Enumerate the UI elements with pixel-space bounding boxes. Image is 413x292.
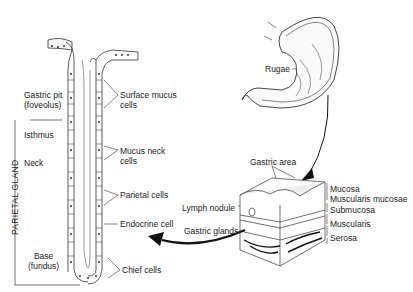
- label-mucus-neck-cells: Mucus neck cells: [120, 146, 165, 166]
- label-serosa: Serosa: [330, 233, 357, 243]
- label-muscularis-mucosae: Muscularis mucosae: [330, 194, 407, 204]
- label-gastric-pit: Gastric pit (foveolus): [24, 90, 62, 110]
- label-mucus-neck-sub: cells: [120, 156, 165, 166]
- label-parietal-cells: Parietal cells: [120, 190, 168, 200]
- label-base-sub: (fundus): [28, 261, 59, 271]
- label-surface-mucus-cells: Surface mucus cells: [120, 90, 177, 110]
- label-endocrine-cell: Endocrine cell: [120, 219, 173, 229]
- label-lymph-nodule: Lymph nodule: [182, 203, 235, 213]
- label-mucosa: Mucosa: [330, 184, 360, 194]
- diagram-canvas: [0, 0, 413, 292]
- label-gastric-pit-text: Gastric pit: [24, 90, 62, 100]
- label-rugae: Rugae: [265, 64, 290, 74]
- label-gastric-glands: Gastric glands: [184, 226, 238, 236]
- label-gastric-area: Gastric area: [250, 157, 296, 167]
- label-isthmus: Isthmus: [24, 130, 54, 140]
- label-chief-cells: Chief cells: [122, 265, 161, 275]
- label-muscularis: Muscularis: [330, 219, 371, 229]
- stomach-illustration: [242, 17, 339, 108]
- label-base: Base (fundus): [28, 251, 59, 271]
- label-surface-mucus-text: Surface mucus: [120, 90, 177, 100]
- label-base-text: Base: [28, 251, 59, 261]
- label-surface-mucus-sub: cells: [120, 100, 177, 110]
- arrow-to-wall: [301, 95, 328, 181]
- label-gastric-pit-sub: (foveolus): [24, 100, 62, 110]
- label-submucosa: Submucosa: [330, 205, 375, 215]
- label-mucus-neck-text: Mucus neck: [120, 146, 165, 156]
- label-neck: Neck: [24, 158, 43, 168]
- label-parietal-gland: PARIETAL GLAND: [10, 160, 20, 235]
- stomach-wall-block: [240, 178, 325, 266]
